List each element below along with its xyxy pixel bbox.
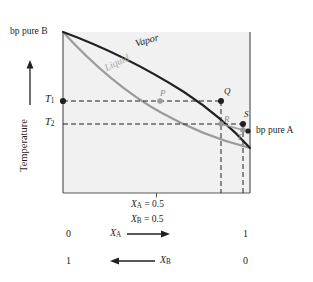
xb-scale-label: XB: [160, 255, 171, 266]
xa-midpoint-label: XA = 0.5: [131, 200, 164, 210]
y-tick-label-T1: T1: [45, 94, 54, 105]
temperature-axis-label: Temperature: [19, 119, 30, 172]
marker-point-Q: [218, 98, 224, 104]
marker-point-S: [240, 121, 246, 127]
y-tick-T1-sub: 1: [51, 97, 55, 105]
xa-scale-sub: A: [116, 231, 121, 239]
point-label-T: T: [237, 133, 242, 142]
point-label-R: R: [224, 115, 230, 124]
plot-background: [63, 32, 250, 193]
xa-scale-right-value: 1: [243, 229, 248, 239]
temperature-axis-arrow: [27, 60, 34, 105]
marker-bp-pure-A: [245, 128, 250, 133]
xa-scale-left-value: 0: [66, 229, 71, 239]
marker-T1-axis: [60, 98, 66, 104]
xb-direction-arrow: [110, 257, 155, 264]
y-tick-T2-sub: 2: [51, 120, 55, 128]
y-tick-label-T2: T2: [45, 117, 54, 128]
xa-direction-arrow: [127, 230, 170, 237]
phase-diagram-figure: bp pure B bp pure A Vapor Liquid Tempera…: [0, 0, 313, 282]
point-label-P: P: [160, 89, 166, 98]
xa-midpoint-value: = 0.5: [142, 199, 164, 209]
xb-midpoint-value: = 0.5: [142, 214, 164, 224]
xb-midpoint-label: XB = 0.5: [131, 215, 164, 225]
bp-pure-a-label: bp pure A: [256, 126, 293, 136]
bp-pure-b-label: bp pure B: [10, 27, 47, 37]
xa-scale-label: XA: [110, 228, 121, 239]
point-label-S: S: [244, 110, 249, 119]
marker-point-R: [218, 121, 224, 127]
xb-scale-sub: B: [166, 258, 171, 266]
xb-scale-left-value: 1: [66, 256, 71, 266]
xb-scale-right-value: 0: [243, 256, 248, 266]
marker-point-P: [157, 98, 163, 104]
point-label-Q: Q: [224, 87, 231, 96]
